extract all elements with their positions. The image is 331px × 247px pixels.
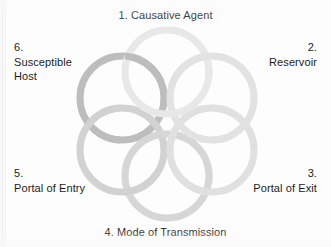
interlocking-rings-diagram bbox=[0, 0, 331, 247]
label-mode-of-transmission: 4. Mode of Transmission bbox=[0, 225, 331, 240]
label-reservoir: 2. Reservoir bbox=[197, 40, 317, 69]
label-portal-of-exit: 3. Portal of Exit bbox=[187, 166, 317, 195]
label-causative-agent: 1. Causative Agent bbox=[0, 8, 331, 23]
label-susceptible-host: 6. Susceptible Host bbox=[14, 40, 134, 84]
chain-of-infection-figure: 1. Causative Agent 6. Susceptible Host 2… bbox=[0, 0, 331, 247]
label-portal-of-entry: 5. Portal of Entry bbox=[14, 166, 144, 195]
